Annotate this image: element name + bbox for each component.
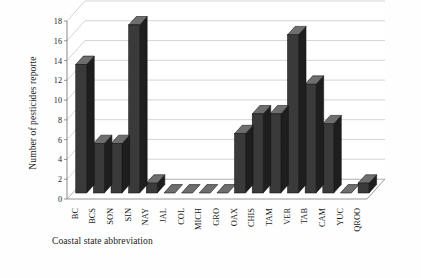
- bar-side-face: [263, 105, 271, 193]
- bar: [235, 125, 254, 193]
- x-tick-label: BC: [71, 208, 80, 220]
- bar-front-face: [146, 183, 157, 193]
- x-tick-label: MICH: [194, 208, 203, 230]
- y-tick-label: 6: [58, 136, 62, 145]
- x-tick-label: CHIS: [247, 208, 256, 227]
- bar-side-face: [316, 76, 324, 193]
- bar-front-face: [288, 35, 299, 193]
- bar-front-face: [76, 64, 87, 193]
- x-tick-label: TAB: [300, 208, 309, 224]
- y-tick-label: 12: [54, 76, 62, 85]
- bar-front-face: [129, 25, 140, 193]
- bar: [323, 115, 342, 193]
- bar: [111, 135, 130, 193]
- bar-front-face: [93, 144, 104, 193]
- y-tick-label: 8: [58, 116, 62, 125]
- x-tick-label: OAX: [230, 208, 239, 226]
- x-tick-label: TAM: [265, 207, 274, 225]
- bar-side-face: [104, 135, 112, 193]
- y-tick-label: 0: [58, 195, 62, 204]
- bar-front-face: [323, 124, 334, 193]
- bar: [76, 56, 95, 193]
- bar-front-face: [305, 84, 316, 193]
- x-tick-label: NAY: [141, 208, 150, 225]
- bar-side-face: [87, 56, 95, 193]
- bar-front-face: [270, 114, 281, 193]
- plot-area: 024681012141618BCBCSSONSINNAYJALCOLMICHG…: [0, 0, 421, 278]
- bar-side-face: [334, 115, 342, 193]
- y-tick-label: 4: [58, 155, 62, 164]
- x-tick-label: YUC: [336, 208, 345, 226]
- bar-front-face: [235, 134, 246, 193]
- bar-chart-3d: 024681012141618BCBCSSONSINNAYJALCOLMICHG…: [0, 0, 421, 278]
- x-tick-label: COL: [177, 208, 186, 225]
- bar: [252, 105, 271, 193]
- x-tick-label: VER: [283, 208, 292, 225]
- y-tick-label: 2: [58, 175, 62, 184]
- bar-side-face: [140, 16, 148, 193]
- x-tick-labels: BCBCSSONSINNAYJALCOLMICHGROOAXCHISTAMVER…: [71, 207, 362, 231]
- bar-side-face: [246, 125, 254, 193]
- y-tick-label: 18: [54, 17, 62, 26]
- bar: [129, 16, 148, 193]
- bar: [270, 105, 289, 193]
- bar: [288, 26, 307, 193]
- y-tick-label: 10: [54, 96, 62, 105]
- x-tick-label: SIN: [124, 208, 133, 222]
- x-tick-label: QROO: [353, 208, 362, 232]
- bar: [305, 76, 324, 193]
- y-tick-label: 16: [54, 37, 62, 46]
- bar-front-face: [252, 114, 263, 193]
- x-tick-label: GRO: [212, 208, 221, 226]
- bar: [93, 135, 112, 193]
- x-tick-label: CAM: [318, 207, 327, 227]
- bar-side-face: [122, 135, 130, 193]
- x-tick-label: SON: [106, 208, 115, 225]
- y-tick-label: 14: [54, 57, 62, 66]
- bar-front-face: [358, 183, 369, 193]
- figure: Number of pesticides reporte Coastal sta…: [0, 0, 421, 278]
- bar-side-face: [298, 26, 306, 193]
- x-tick-label: BCS: [88, 208, 97, 224]
- bar-front-face: [111, 144, 122, 193]
- x-tick-label: JAL: [159, 208, 168, 222]
- bar-side-face: [281, 105, 289, 193]
